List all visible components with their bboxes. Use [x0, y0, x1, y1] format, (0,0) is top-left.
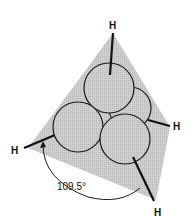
- atom-front-bottom: [100, 114, 150, 164]
- tetrahedral-molecule-diagram: H H H H 109.5°: [0, 0, 194, 224]
- atom-label-left: H: [11, 145, 18, 156]
- atom-label-top: H: [109, 20, 116, 31]
- bond-angle-label: 109.5°: [57, 181, 86, 192]
- atom-left: [53, 102, 103, 152]
- atom-label-bottom: H: [154, 207, 161, 218]
- atom-label-right: H: [173, 121, 180, 132]
